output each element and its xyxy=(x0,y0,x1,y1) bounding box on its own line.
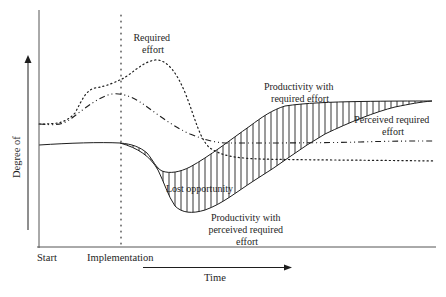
perceived-required-label: Perceived required effort xyxy=(354,114,432,137)
effort-productivity-diagram: Degree of Time Start Implementation Requ… xyxy=(0,0,446,297)
y-direction-arrow xyxy=(25,55,32,230)
x-tick-start: Start xyxy=(37,252,57,263)
productivity-perceived-label: Productivity with perceived required eff… xyxy=(208,212,285,247)
productivity-required-label: Productivity with required effort xyxy=(264,81,336,104)
arrow-up-icon xyxy=(25,55,32,63)
arrow-right-icon xyxy=(284,265,292,271)
required-effort-label: Required effort xyxy=(133,32,172,55)
lost-opportunity-label: Lost opportunity xyxy=(166,183,233,194)
y-axis-label: Degree of xyxy=(11,136,22,178)
x-tick-implementation: Implementation xyxy=(87,252,154,263)
x-axis-label: Time xyxy=(204,272,226,283)
x-direction-arrow xyxy=(143,265,292,271)
